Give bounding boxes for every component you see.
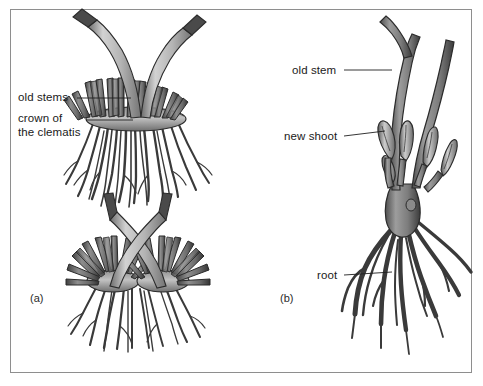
label-new-shoot-text: new shoot — [284, 130, 338, 142]
new-shoot-bud — [400, 121, 414, 161]
label-old-stem: old stem — [292, 64, 392, 76]
label-crown-text-line1: crown of — [18, 112, 63, 124]
new-shoot-bud — [441, 140, 457, 176]
label-crown-text-line2: the clematis — [18, 126, 81, 138]
panel-label-a: (a) — [30, 292, 43, 304]
label-new-shoot: new shoot — [284, 130, 385, 142]
rootstock-crown — [385, 184, 420, 237]
fibrous-root-mass-top — [64, 124, 212, 207]
panel-label-b: (b) — [280, 292, 293, 304]
fibrous-root-mass-bottom — [68, 280, 205, 352]
panel-a-bottom-plant — [66, 193, 210, 352]
figure-root: old stems crown of the clematis old stem… — [0, 0, 483, 386]
botanical-diagram: old stems crown of the clematis old stem… — [0, 0, 483, 386]
panel-a-top-plant — [64, 9, 212, 207]
label-old-stem-text: old stem — [292, 64, 336, 76]
thick-roots — [342, 222, 471, 354]
label-root-text: root — [317, 269, 338, 281]
panel-b-rootstock — [342, 16, 471, 354]
label-old-stems-text: old stems — [18, 91, 68, 103]
